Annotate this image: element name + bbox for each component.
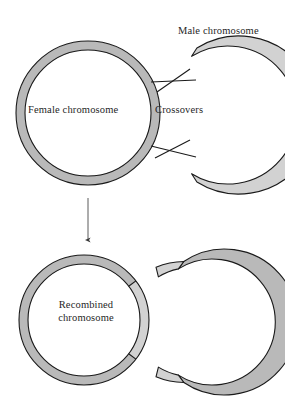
crossover-upper (151, 69, 196, 92)
crossover-lower (151, 140, 196, 158)
residual-arc-tip-upper (156, 262, 184, 277)
diagram-canvas (0, 0, 285, 416)
crossovers-label: Crossovers (155, 104, 203, 117)
male-chromosome (192, 36, 285, 194)
residual-male-arc (156, 249, 285, 395)
residual-arc-tip-lower (156, 367, 184, 382)
recombined-insert-fill (129, 281, 149, 359)
recombined-chromosome-label: Recombined chromosome (44, 299, 128, 324)
recombined-chromosome-label-line1: Recombined (59, 299, 114, 310)
male-chromosome-label: Male chromosome (178, 25, 259, 38)
female-chromosome-label: Female chromosome (28, 104, 118, 117)
crossover-lower-stroke-a (151, 146, 196, 157)
recombination-diagram-figure: Male chromosome Female chromosome Crosso… (0, 0, 285, 416)
male-chromosome-arc (192, 36, 285, 194)
recombined-chromosome-label-line2: chromosome (44, 312, 128, 325)
residual-arc-body (178, 249, 285, 395)
crossover-lower-stroke-b (155, 140, 190, 158)
